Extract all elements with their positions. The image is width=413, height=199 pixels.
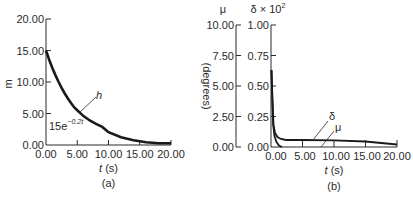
b-xtick-20: 20.00 bbox=[383, 150, 411, 162]
b-xtick-10: 10.00 bbox=[322, 150, 350, 162]
a-y-label: m bbox=[2, 79, 14, 88]
a-xtick-15: 15.00 bbox=[126, 148, 154, 160]
a-xtick-0: 0.00 bbox=[35, 148, 56, 160]
b-xtick-0: 0.00 bbox=[265, 150, 286, 162]
b-mu-tick-5: 5.00 bbox=[213, 80, 234, 92]
figure: 20.00 15.00 10.00 5.00 0.00 0.00 5.00 10… bbox=[0, 0, 413, 199]
b-xtick-15: 15.00 bbox=[353, 150, 381, 162]
a-x-label: t (s) bbox=[99, 162, 118, 174]
panel-b: μ δ × 102 10.00 7.50 5.00 2.50 0.00 1.00… bbox=[201, 2, 411, 192]
b-delta-tick-0.25: 0.25 bbox=[248, 111, 269, 123]
b-delta-tick-0.5: 0.50 bbox=[248, 80, 269, 92]
b-mu-label: μ bbox=[335, 121, 341, 133]
a-ytick-15: 15.00 bbox=[16, 45, 44, 57]
b-mu-tick-2.5: 2.50 bbox=[213, 111, 234, 123]
b-mu-tick-0: 0.00 bbox=[213, 141, 234, 153]
b-mu-title: μ bbox=[220, 3, 226, 15]
a-ytick-10: 10.00 bbox=[16, 76, 44, 88]
panel-a: 20.00 15.00 10.00 5.00 0.00 0.00 5.00 10… bbox=[2, 13, 185, 189]
b-delta-tick-0.75: 0.75 bbox=[248, 50, 269, 62]
b-delta-tick-1: 1.00 bbox=[248, 19, 269, 31]
b-y-label: (degrees) bbox=[201, 62, 213, 109]
b-mu-tick-7.5: 7.50 bbox=[213, 50, 234, 62]
a-xtick-5: 5.00 bbox=[67, 148, 88, 160]
a-xtick-10: 10.00 bbox=[95, 148, 123, 160]
a-h-label: h bbox=[96, 89, 102, 101]
a-xtick-20: 20.00 bbox=[157, 148, 185, 160]
a-h-leader bbox=[79, 97, 96, 113]
a-formula: 15e−0.2t bbox=[49, 118, 84, 132]
b-delta-title: δ × 102 bbox=[251, 2, 286, 15]
a-y-ticks bbox=[46, 19, 51, 114]
b-mu-leader bbox=[321, 131, 334, 147]
b-curve-delta bbox=[272, 70, 398, 145]
a-ytick-20: 20.00 bbox=[16, 13, 44, 25]
b-delta-leader bbox=[313, 121, 328, 140]
a-caption: (a) bbox=[102, 177, 115, 189]
a-ytick-5: 5.00 bbox=[23, 108, 44, 120]
b-xtick-5: 5.00 bbox=[294, 150, 315, 162]
b-x-label: t (s) bbox=[325, 164, 344, 176]
b-mu-tick-10: 10.00 bbox=[206, 19, 234, 31]
b-caption: (b) bbox=[327, 180, 340, 192]
